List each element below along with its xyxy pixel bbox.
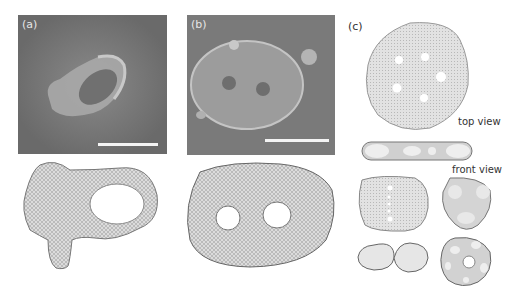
mesh-a (24, 162, 158, 268)
simulation-meshes (0, 0, 516, 294)
mesh-c-top-view (366, 23, 468, 130)
mesh-b (188, 163, 334, 267)
mesh-c-shape-3 (359, 176, 428, 231)
front-view-label: front view (452, 164, 502, 175)
mesh-c-shape-4 (443, 178, 491, 230)
mesh-c-side-view (362, 142, 472, 160)
top-view-label: top view (458, 116, 501, 127)
mesh-c-shape-6 (441, 238, 491, 286)
mesh-c-shape-5 (358, 243, 428, 272)
